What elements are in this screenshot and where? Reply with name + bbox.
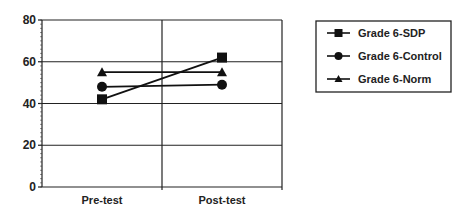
circle-marker-icon [97, 82, 107, 92]
gridlines [42, 20, 282, 190]
x-tick-label: Pre-test [82, 194, 123, 206]
y-tick-label: 60 [23, 55, 37, 69]
square-marker-icon [217, 53, 227, 63]
legend: Grade 6-SDPGrade 6-ControlGrade 6-Norm [316, 21, 451, 92]
y-tick-label: 20 [23, 138, 37, 152]
chart: 020406080 Pre-testPost-test Grade 6-SDPG… [0, 0, 468, 218]
legend-label: Grade 6-Control [358, 50, 442, 62]
y-tick-label: 80 [23, 13, 37, 27]
x-axis: Pre-testPost-test [82, 194, 246, 206]
square-marker-icon [335, 29, 343, 37]
y-tick-label: 40 [23, 97, 37, 111]
y-axis: 020406080 [23, 13, 42, 194]
legend-label: Grade 6-SDP [358, 27, 425, 39]
x-tick-label: Post-test [198, 194, 245, 206]
legend-label: Grade 6-Norm [358, 73, 432, 85]
series-line [102, 85, 222, 87]
square-marker-icon [97, 94, 107, 104]
y-tick-label: 0 [29, 180, 36, 194]
circle-marker-icon [335, 52, 343, 60]
circle-marker-icon [217, 80, 227, 90]
